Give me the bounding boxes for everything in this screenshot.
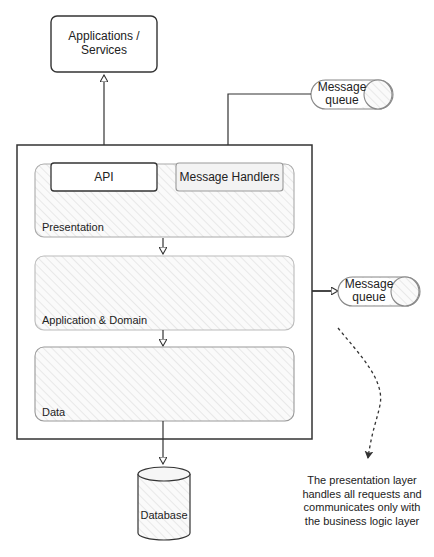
data-layer-label: Data <box>42 406 65 418</box>
presentation-layer-label: Presentation <box>42 221 104 233</box>
mq-right-label: Message queue <box>339 278 399 304</box>
message-handlers-label: Message Handlers <box>176 170 283 184</box>
mq-top-label: Message queue <box>312 81 372 107</box>
annotation-text: The presentation layer handles all reque… <box>290 474 434 528</box>
data-layer-box <box>35 347 294 421</box>
annotation-arrow <box>338 328 381 458</box>
database-label: Database <box>138 509 190 521</box>
application-domain-layer-label: Application & Domain <box>42 314 147 326</box>
apps-label: Applications / Services <box>51 29 157 57</box>
database-shape <box>138 467 190 540</box>
api-label: API <box>51 170 157 184</box>
